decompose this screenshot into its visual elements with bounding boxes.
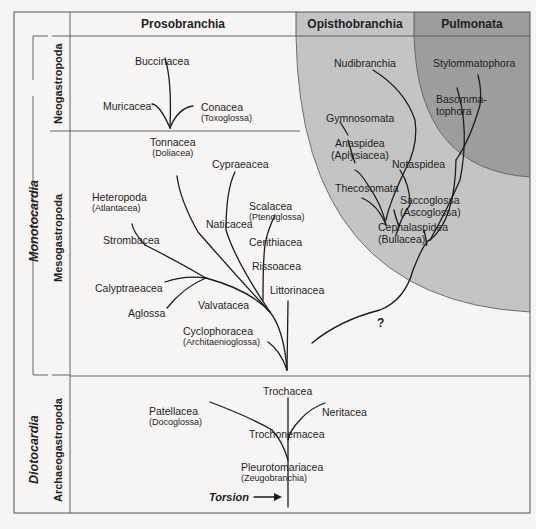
- taxon-saccoglossa: Saccoglossa (Ascoglossa): [400, 194, 461, 218]
- taxon-cerithiacea: Cerithiacea: [249, 236, 302, 248]
- taxon-patellacea-name: Patellacea: [149, 405, 198, 417]
- taxon-neritacea: Neritacea: [322, 406, 367, 418]
- taxon-rissoacea: Rissoacea: [252, 260, 301, 272]
- taxon-cyclophoracea: Cyclophoracea (Architaenioglossa): [183, 325, 260, 347]
- taxon-nudibranchia: Nudibranchia: [334, 57, 396, 69]
- uncertain-marker: ?: [377, 316, 384, 330]
- taxon-gymnosomata: Gymnosomata: [326, 112, 394, 124]
- taxon-aglossa: Aglossa: [128, 307, 165, 319]
- taxon-pleurotomariacea-name: Pleurotomariacea: [241, 461, 323, 473]
- taxon-notaspidea: Notaspidea: [392, 158, 445, 170]
- taxon-conacea: Conacea (Toxoglossa): [201, 101, 252, 123]
- label-monotocardia: Monotocardia: [27, 180, 41, 262]
- taxon-anaspidea-name: Anaspidea: [331, 137, 389, 149]
- taxon-anaspidea: Anaspidea (Aplysiacea): [331, 137, 389, 161]
- taxon-muricacea: Muricacea: [103, 100, 151, 112]
- taxon-conacea-alt: (Toxoglossa): [201, 113, 252, 123]
- taxon-conacea-name: Conacea: [201, 101, 243, 113]
- taxon-cephalaspidea-name: Cephalaspidea: [378, 221, 448, 233]
- taxon-cephalaspidea-alt: (Bullacea): [378, 233, 448, 245]
- taxon-saccoglossa-name: Saccoglossa: [400, 194, 461, 206]
- taxon-basommatophora-line1: Basomma-: [436, 93, 487, 105]
- taxon-basommatophora: Basomma- tophora: [436, 93, 487, 117]
- taxon-patellacea: Patellacea (Docoglossa): [149, 405, 202, 427]
- taxon-heteropoda: Heteropoda (Atlantacea): [92, 191, 147, 213]
- label-archaeogastropoda: Archaeogastropoda: [52, 398, 64, 502]
- taxon-naticacea: Naticacea: [206, 218, 253, 230]
- taxon-heteropoda-alt: (Atlantacea): [92, 203, 147, 213]
- taxon-cypraeacea: Cypraeacea: [212, 158, 269, 170]
- taxon-buccinacea: Buccinacea: [135, 55, 189, 67]
- taxon-tonnacea-alt: (Doliacea): [150, 148, 196, 158]
- torsion-label: Torsion: [209, 491, 249, 503]
- taxon-trochonemacea: Trochonemacea: [249, 428, 324, 440]
- taxon-calyptraeacea: Calyptraeacea: [95, 282, 163, 294]
- label-diotocardia: Diotocardia: [27, 415, 41, 484]
- taxon-trochacea: Trochacea: [263, 385, 312, 397]
- taxon-cephalaspidea: Cephalaspidea (Bullacea): [378, 221, 448, 245]
- label-neogastropoda: Neogastropoda: [52, 43, 64, 124]
- gastropod-phylogeny-diagram: Prosobranchia Opisthobranchia Pulmonata …: [0, 0, 536, 529]
- header-prosobranchia: Prosobranchia: [70, 17, 296, 31]
- header-pulmonata: Pulmonata: [414, 17, 530, 31]
- taxon-thecosomata: Thecosomata: [335, 182, 399, 194]
- taxon-strombacea: Strombacea: [103, 234, 160, 246]
- taxon-tonnacea: Tonnacea (Doliacea): [150, 136, 196, 158]
- taxon-pleurotomariacea: Pleurotomariacea (Zeugobranchia): [241, 461, 323, 483]
- taxon-stylommatophora: Stylommatophora: [433, 57, 515, 69]
- taxon-cyclophoracea-alt: (Architaenioglossa): [183, 337, 260, 347]
- taxon-scalacea: Scalacea (Ptenoglossa): [249, 200, 305, 222]
- taxon-patellacea-alt: (Docoglossa): [149, 417, 202, 427]
- taxon-pleurotomariacea-alt: (Zeugobranchia): [241, 473, 323, 483]
- taxon-scalacea-alt: (Ptenoglossa): [249, 212, 305, 222]
- taxon-cyclophoracea-name: Cyclophoracea: [183, 325, 253, 337]
- taxon-anaspidea-alt: (Aplysiacea): [331, 149, 389, 161]
- header-opisthobranchia: Opisthobranchia: [296, 17, 414, 31]
- taxon-saccoglossa-alt: (Ascoglossa): [400, 206, 461, 218]
- label-mesogastropoda: Mesogastropoda: [52, 194, 64, 282]
- taxon-littorinacea: Littorinacea: [270, 284, 324, 296]
- taxon-valvatacea: Valvatacea: [198, 299, 249, 311]
- taxon-heteropoda-name: Heteropoda: [92, 191, 147, 203]
- taxon-scalacea-name: Scalacea: [249, 200, 292, 212]
- taxon-basommatophora-line2: tophora: [436, 105, 487, 117]
- taxon-tonnacea-name: Tonnacea: [150, 136, 196, 148]
